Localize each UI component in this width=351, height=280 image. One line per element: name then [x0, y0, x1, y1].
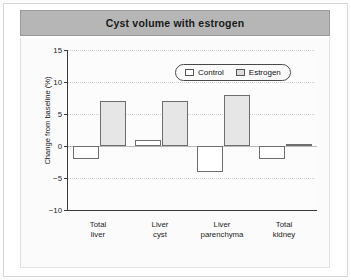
y-tick-label: 15: [53, 46, 68, 55]
bar-control-liver-parenchyma: [197, 146, 223, 172]
y-tick-label: 10: [53, 78, 68, 87]
legend-item-control: Control: [185, 68, 224, 77]
y-axis-label: Change from baseline (%): [43, 51, 52, 191]
x-axis-line: [65, 210, 317, 211]
legend-item-estrogen: Estrogen: [236, 68, 281, 77]
x-tick-label: Livercyst: [152, 220, 169, 240]
legend-label-estrogen: Estrogen: [249, 68, 281, 77]
bar-estrogen-total-kidney: [286, 144, 312, 146]
x-axis-tick-labels: TotalliverLivercystLiverparenchymaTotalk…: [67, 214, 315, 254]
x-tick-label: Totalkidney: [273, 220, 296, 240]
legend-swatch-estrogen: [236, 69, 245, 76]
chart-panel: Change from baseline (%) −10−5051015 Tot…: [20, 38, 330, 268]
gridline: [68, 82, 315, 83]
y-tick-label: 5: [58, 110, 68, 119]
legend-label-control: Control: [198, 68, 224, 77]
bar-estrogen-liver-parenchyma: [224, 95, 250, 146]
y-tick-label: 0: [58, 142, 68, 151]
x-tick-label: Totalliver: [90, 220, 106, 240]
bar-control-total-kidney: [259, 146, 285, 159]
legend-swatch-control: [185, 69, 194, 76]
bar-control-liver-cyst: [135, 140, 161, 146]
y-tick-label: −5: [53, 174, 68, 183]
x-tick-label: Liverparenchyma: [201, 220, 244, 240]
bar-estrogen-liver-cyst: [162, 101, 188, 146]
gridline: [68, 178, 315, 179]
bar-control-total-liver: [73, 146, 99, 159]
page-title: Cyst volume with estrogen: [106, 17, 245, 29]
figure-page: Cyst volume with estrogen Change from ba…: [0, 0, 351, 280]
chart-legend: Control Estrogen: [175, 64, 291, 81]
chart-title-bar: Cyst volume with estrogen: [20, 10, 330, 36]
gridline: [68, 50, 315, 51]
bar-estrogen-total-liver: [100, 101, 126, 146]
